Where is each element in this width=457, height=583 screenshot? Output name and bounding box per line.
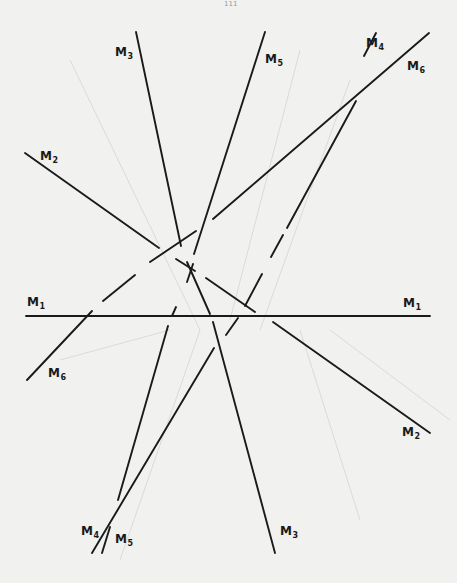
label-m3-bottom: M3 [280,525,298,540]
label-m6-top: M6 [407,60,425,75]
label-subscript: 3 [292,531,298,540]
label-m5-top: M5 [265,53,283,68]
label-m4-top: M4 [366,37,384,52]
label-subscript: 6 [60,373,66,382]
line-segment-m6 [213,33,429,219]
line-segment-m5 [118,326,168,500]
label-subscript: 3 [127,52,133,61]
label-letter: M [265,52,277,66]
label-letter: M [27,295,39,309]
label-m2-top: M2 [40,150,58,165]
faint-guide-line [300,330,360,520]
label-subscript: 4 [378,43,384,52]
line-segment-m4 [245,274,262,306]
label-subscript: 2 [414,432,420,441]
line-m2 [25,153,430,433]
label-letter: M [366,36,378,50]
faint-guide-line [120,330,200,560]
label-m2-bottom: M2 [402,426,420,441]
label-letter: M [81,524,93,538]
faint-guide-line [230,50,300,320]
label-letter: M [280,524,292,538]
label-subscript: 1 [39,302,45,311]
line-segment-m2 [273,322,430,433]
lines-group [25,32,430,553]
label-m4-bottom: M4 [81,525,99,540]
line-segment-m5 [194,32,265,254]
label-subscript: 5 [277,59,283,68]
faint-guide-line [60,330,170,360]
line-segment-m6 [103,275,135,301]
label-letter: M [115,45,127,59]
line-m6 [27,33,429,380]
label-subscript: 5 [127,539,133,548]
label-m1-right: M1 [403,297,421,312]
label-letter: M [40,149,52,163]
label-letter: M [407,59,419,73]
line-segment-m2 [25,153,159,248]
line-m5 [102,32,265,553]
line-segment-m4 [271,235,283,257]
label-subscript: 4 [93,531,99,540]
label-subscript: 2 [52,156,58,165]
line-segment-m5 [172,307,176,316]
line-segment-m2 [206,278,255,312]
label-m3-top: M3 [115,46,133,61]
line-segment-m4 [287,101,356,228]
label-subscript: 1 [415,303,421,312]
line-segment-m4 [226,318,238,335]
faint-guide-line [260,80,350,330]
line-segment-m3 [213,322,275,553]
line-m3 [136,32,275,553]
label-m1-left: M1 [27,296,45,311]
faint-guide-lines [60,50,450,560]
label-m6-bottom: M6 [48,367,66,382]
line-arrangement-diagram [0,0,457,583]
label-letter: M [403,296,415,310]
faint-guide-line [70,60,200,330]
label-subscript: 6 [419,66,425,75]
label-letter: M [48,366,60,380]
line-segment-m3 [136,32,181,246]
line-m4 [92,33,376,553]
label-letter: M [402,425,414,439]
label-m5-bottom: M5 [115,533,133,548]
label-letter: M [115,532,127,546]
